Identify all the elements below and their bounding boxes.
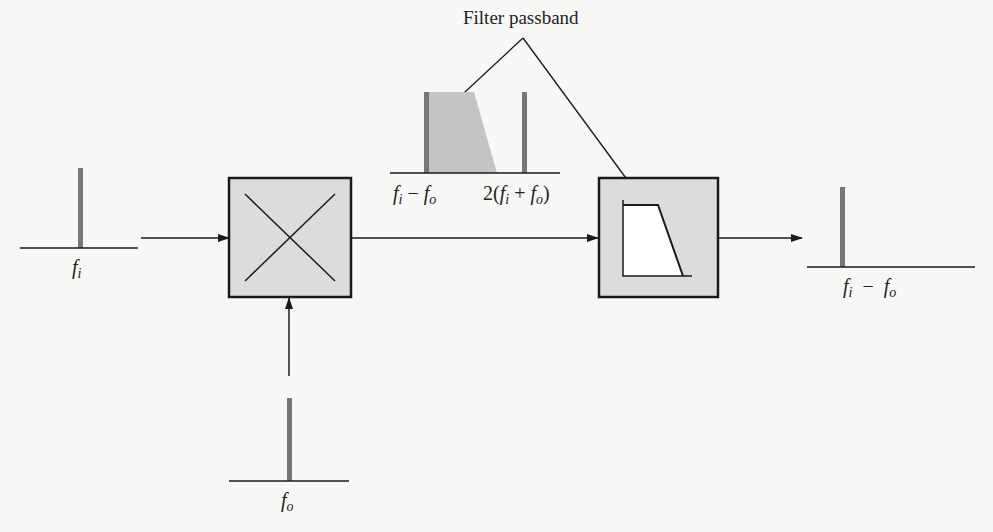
difference-frequency-bar: [424, 92, 429, 173]
input-spectrum: fi: [20, 168, 138, 281]
lo-spectrum: fo: [229, 398, 349, 514]
mixer-block: [229, 178, 351, 297]
input-frequency-bar: [78, 168, 83, 248]
lo-frequency-bar: [287, 398, 292, 481]
input-frequency-label: fi: [72, 256, 82, 281]
filter-block: [599, 178, 718, 297]
output-frequency-bar: [840, 187, 845, 267]
output-spectrum: fi − fo: [807, 187, 975, 301]
passband-shading: [428, 92, 497, 173]
sum-frequency-label: 2(fi + fo): [483, 182, 550, 207]
mixer-output-spectrum: fi − fo 2(fi + fo): [390, 92, 560, 207]
output-frequency-label: fi − fo: [808, 275, 921, 301]
sum-frequency-bar: [522, 92, 527, 173]
lo-frequency-label: fo: [281, 489, 294, 514]
mixer-filter-diagram: Filter passband fi − fo 2(fi + fo) fi: [0, 0, 993, 532]
filter-passband-title: Filter passband: [463, 7, 579, 28]
difference-frequency-label: fi − fo: [393, 182, 436, 207]
